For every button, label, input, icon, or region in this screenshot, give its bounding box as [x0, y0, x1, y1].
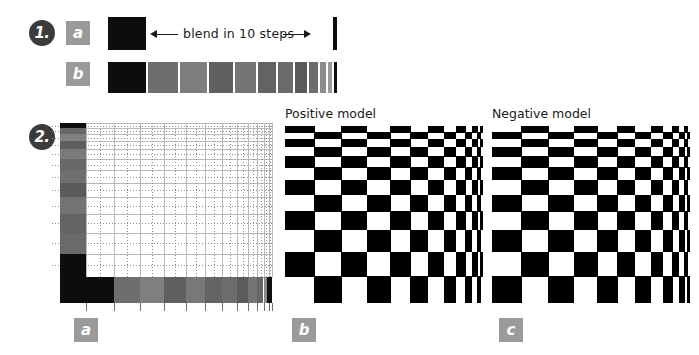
blend-step-swatch — [209, 62, 233, 93]
grid-tick — [269, 303, 270, 311]
checker-cell-negative — [679, 132, 685, 139]
checker-cell-negative — [617, 180, 635, 195]
gradient-cell-bottom — [205, 277, 222, 303]
checker-cell-positive — [285, 139, 315, 147]
checker-cell-positive — [428, 252, 444, 277]
checker-cell-positive — [390, 139, 411, 147]
checker-cell-positive — [465, 195, 472, 212]
grid-line-dotted-vertical — [175, 123, 176, 277]
checker-cell-negative — [492, 276, 522, 303]
checker-cell-positive — [390, 252, 411, 277]
arrow-right-line — [283, 34, 305, 35]
checker-cell-positive — [444, 147, 456, 157]
checker-cell-negative — [521, 139, 549, 147]
checker-cell-positive — [456, 180, 466, 195]
checker-cell-negative — [635, 195, 651, 212]
gradient-cell-bottom — [140, 277, 164, 303]
negative-model-title: Negative model — [492, 106, 591, 121]
blend-step-swatch — [108, 62, 146, 93]
grid-line-horizontal — [60, 233, 272, 234]
grid-line-horizontal — [60, 170, 272, 171]
checker-cell-negative — [617, 252, 635, 277]
checker-cell-negative — [521, 211, 549, 230]
checker-cell-positive — [477, 276, 481, 303]
checker-cell-negative — [574, 156, 598, 168]
checker-cell-negative — [635, 147, 651, 157]
checker-cell-negative — [597, 195, 618, 212]
checker-cell-positive — [367, 132, 391, 139]
checker-cell-negative — [687, 230, 690, 252]
checker-cell-negative — [574, 180, 598, 195]
negative-model-checkerboard — [492, 126, 690, 303]
checker-cell-negative — [663, 230, 673, 252]
grid-tick — [237, 303, 238, 311]
checker-cell-negative — [651, 211, 663, 230]
checker-cell-negative — [672, 126, 679, 133]
blend-step-swatch — [180, 62, 207, 93]
blend-step-swatch — [295, 62, 307, 93]
checker-cell-negative — [521, 126, 549, 133]
checker-cell-positive — [465, 147, 472, 157]
gradient-cell-bottom — [222, 277, 237, 303]
checker-cell-positive — [314, 167, 342, 180]
checker-cell-negative — [548, 167, 574, 180]
checker-cell-negative — [492, 230, 522, 252]
checker-cell-positive — [472, 252, 478, 277]
checker-cell-negative — [651, 126, 663, 133]
checker-cell-positive — [477, 195, 481, 212]
positive-model-title: Positive model — [285, 106, 376, 121]
grid-tick — [140, 303, 141, 311]
checker-cell-negative — [635, 230, 651, 252]
checker-cell-positive — [314, 276, 342, 303]
blend-step-swatch — [320, 62, 326, 93]
checker-cell-negative — [663, 276, 673, 303]
gradient-cell-bottom — [186, 277, 205, 303]
grid-tick — [264, 303, 265, 311]
checker-cell-negative — [679, 195, 685, 212]
checker-cell-positive — [410, 147, 428, 157]
grid-line-dotted-vertical — [266, 123, 267, 277]
grid-line-dotted-vertical — [270, 123, 271, 277]
checker-cell-positive — [444, 132, 456, 139]
gradient-cell-corner — [60, 277, 86, 303]
checker-cell-positive — [367, 230, 391, 252]
checker-cell-negative — [651, 180, 663, 195]
checker-cell-positive — [477, 167, 481, 180]
checker-cell-negative — [679, 230, 685, 252]
checker-cell-negative — [687, 132, 690, 139]
checker-cell-positive — [390, 211, 411, 230]
checker-cell-positive — [410, 167, 428, 180]
checker-cell-negative — [687, 167, 690, 180]
badge-1a: a — [66, 21, 90, 45]
blend-step-swatch — [334, 62, 337, 93]
blend-step-swatch — [309, 62, 318, 93]
checker-cell-positive — [367, 147, 391, 157]
checker-cell-negative — [492, 132, 522, 139]
grid-line-horizontal — [60, 134, 272, 135]
checker-cell-negative — [521, 156, 549, 168]
checker-cell-positive — [285, 156, 315, 168]
blend-target-bar — [333, 17, 337, 50]
checker-cell-negative — [574, 211, 598, 230]
checker-cell-positive — [314, 230, 342, 252]
checker-cell-positive — [480, 211, 483, 230]
checker-cell-negative — [548, 195, 574, 212]
checker-cell-positive — [390, 180, 411, 195]
checker-cell-negative — [663, 132, 673, 139]
checker-cell-negative — [574, 252, 598, 277]
checker-cell-negative — [687, 195, 690, 212]
grid-tick — [257, 303, 258, 311]
checker-cell-positive — [428, 139, 444, 147]
checker-cell-negative — [635, 276, 651, 303]
checker-cell-positive — [472, 211, 478, 230]
checker-cell-negative — [548, 147, 574, 157]
checker-cell-positive — [410, 230, 428, 252]
checker-cell-positive — [456, 211, 466, 230]
grid-line-horizontal — [60, 128, 272, 129]
checker-cell-positive — [314, 147, 342, 157]
checker-cell-positive — [341, 139, 367, 147]
checker-cell-positive — [456, 252, 466, 277]
checker-cell-positive — [285, 180, 315, 195]
arrow-left-line — [156, 34, 178, 35]
checker-cell-negative — [635, 167, 651, 180]
